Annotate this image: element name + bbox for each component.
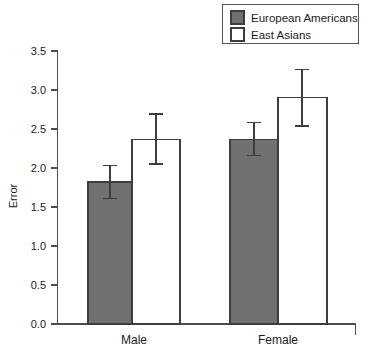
legend-swatch-east-asians [231,28,244,41]
y-axis-tick-labels: 0.0 0.5 1.0 1.5 2.0 2.5 3.0 3.5 [31,45,46,330]
y-axis-ticks [51,51,58,324]
y-tick-label-5: 2.5 [31,123,46,135]
x-category-label-female: Female [258,333,298,347]
bar-european-americans-male [88,182,132,324]
y-tick-label-1: 0.5 [31,279,46,291]
y-tick-label-6: 3.0 [31,84,46,96]
y-axis-title: Error [7,183,19,208]
legend-label-european-americans: European Americans [251,12,358,24]
y-tick-label-0: 0.0 [31,318,46,330]
chart-canvas: 0.0 0.5 1.0 1.5 2.0 2.5 3.0 3.5 Error [0,0,370,350]
x-category-label-male: Male [121,333,147,347]
bar-chart: 0.0 0.5 1.0 1.5 2.0 2.5 3.0 3.5 Error [0,0,370,350]
y-tick-label-3: 1.5 [31,201,46,213]
bar-european-americans-female [230,139,278,324]
legend-swatch-european-americans [231,11,244,24]
bar-east-asians-male [132,139,180,324]
y-tick-label-4: 2.0 [31,162,46,174]
y-tick-label-2: 1.0 [31,240,46,252]
y-tick-label-7: 3.5 [31,45,46,57]
bar-east-asians-female [278,98,327,324]
legend-label-east-asians: East Asians [251,29,311,41]
legend: European Americans East Asians [223,5,359,44]
